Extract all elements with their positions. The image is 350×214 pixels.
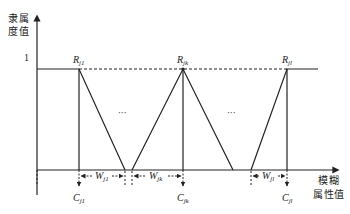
y-axis-label-line2: 度值 [8, 26, 29, 37]
diagram-canvas [0, 0, 350, 214]
x-axis-label-line2: 属性值 [313, 189, 345, 200]
membership-curve-jl [251, 69, 318, 170]
width-label-j1: Wj1 [95, 170, 109, 185]
y-axis-label-line1: 隶属 [8, 13, 29, 24]
y-tick-one: 1 [24, 52, 29, 63]
width-label-jl: Wjl [262, 170, 274, 185]
center-label-jk: Cjk [177, 192, 189, 207]
center-label-j1: Cj1 [73, 192, 85, 207]
membership-curve-j1 [37, 69, 125, 170]
ellipsis-left: ··· [118, 108, 127, 118]
ellipsis-right: ··· [227, 108, 236, 118]
center-label-jl: Cjl [282, 192, 293, 207]
membership-function-diagram: 隶属 度值 1 模糊 属性值 Rj1 Rjk Rjl Cj1 Cjk Cjl W… [0, 0, 350, 214]
x-axis-label-line1: 模糊 [318, 175, 339, 186]
width-label-jk: Wjk [149, 170, 162, 185]
peak-label-jl: Rjl [282, 54, 292, 69]
peak-label-j1: Rj1 [73, 54, 85, 69]
peak-label-jk: Rjk [177, 54, 188, 69]
